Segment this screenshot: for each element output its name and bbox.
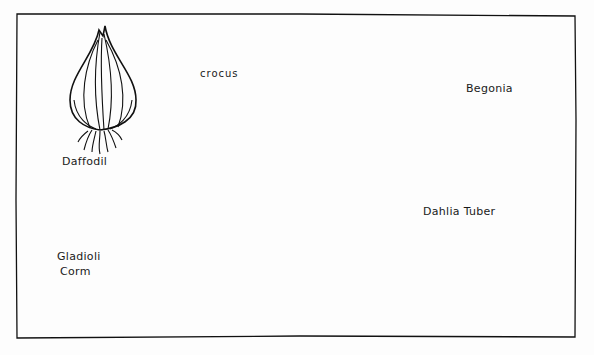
daffodil-bulb — [70, 26, 136, 154]
label-dahlia-tuber: Dahlia Tuber — [423, 205, 495, 218]
label-crocus: crocus — [200, 68, 239, 79]
label-gladioli: Gladioli — [57, 250, 101, 263]
bulb-illustration — [0, 0, 594, 355]
label-corm: Corm — [60, 265, 91, 278]
label-daffodil: Daffodil — [62, 155, 107, 168]
label-begonia: Begonia — [466, 82, 513, 95]
frame-border — [16, 14, 576, 338]
